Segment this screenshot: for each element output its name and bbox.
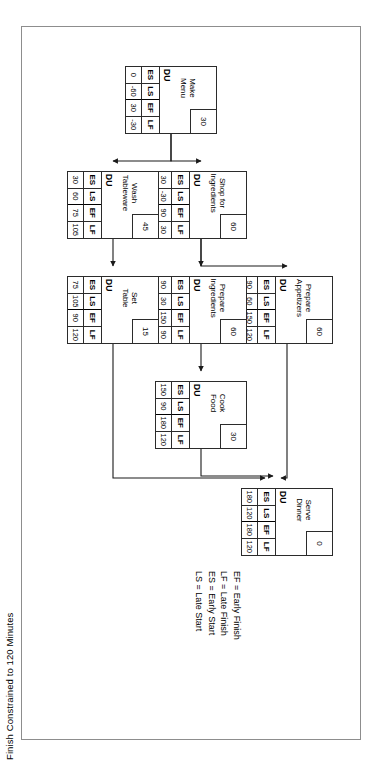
legend: EF = Early Finish LF = Late Finish ES = … <box>193 571 243 640</box>
es-value: 30 <box>68 172 85 189</box>
du-label: DU <box>192 174 202 186</box>
node-values-grid: ES LS EF LF 30 60 75 105 <box>68 172 102 238</box>
legend-item-lf: LF = Late Finish <box>218 571 231 640</box>
du-value: 15 <box>132 319 158 343</box>
node-make-menu[interactable]: Make Menu DU 30 ES LS EF LF 0 -60 30 -30 <box>125 66 217 134</box>
link-appetizers-to-serve <box>281 344 287 478</box>
ls-header: LS <box>143 84 160 101</box>
du-value: 60 <box>220 214 246 238</box>
ls-value: 105 <box>68 294 85 311</box>
lf-header: LF <box>85 327 102 344</box>
du-value: 30 <box>190 109 216 133</box>
ls-value: 90 <box>156 399 173 416</box>
link-shop-to-appetizers <box>201 239 287 266</box>
node-header: Prepare Ingredients DU 60 <box>190 277 246 343</box>
ls-header: LS <box>85 189 102 206</box>
ls-value: 120 <box>242 506 259 523</box>
ef-header: EF <box>259 310 276 327</box>
node-values-grid: ES LS EF LF 90 30 150 90 <box>156 277 190 343</box>
ef-value: 30 <box>126 100 143 117</box>
du-value: 60 <box>220 319 246 343</box>
ls-value: -60 <box>126 84 143 101</box>
node-values-grid: ES LS EF LF 75 105 90 120 <box>68 277 102 343</box>
es-header: ES <box>259 489 276 506</box>
lf-value: 120 <box>242 539 259 556</box>
ls-value: 60 <box>68 189 85 206</box>
legend-item-ls: LS = Late Start <box>193 571 206 640</box>
es-header: ES <box>85 277 102 294</box>
node-header: Wash Tableware DU 45 <box>102 172 158 238</box>
ls-header: LS <box>259 506 276 523</box>
du-label: DU <box>162 69 172 81</box>
lf-value: 120 <box>68 327 85 344</box>
ls-header: LS <box>173 294 190 311</box>
node-cook-food[interactable]: Cook Food DU 30 ES LS EF LF 150 90 180 1… <box>155 381 247 449</box>
page-title: Finish Constrained to 120 Minutes <box>0 0 20 760</box>
es-header: ES <box>259 277 276 294</box>
du-value: 45 <box>132 214 158 238</box>
lf-header: LF <box>143 117 160 134</box>
ef-value: 180 <box>156 415 173 432</box>
ef-value: 180 <box>242 522 259 539</box>
node-values-grid: ES LS EF LF 180 120 180 120 <box>242 489 276 555</box>
du-label: DU <box>278 491 288 503</box>
lf-header: LF <box>173 327 190 344</box>
es-header: ES <box>173 172 190 189</box>
link-make-menu-to-shop <box>171 134 201 161</box>
node-values-grid: ES LS EF LF 30 -30 90 30 <box>156 172 190 238</box>
ls-header: LS <box>85 294 102 311</box>
node-wash-tableware[interactable]: Wash Tableware DU 45 ES LS EF LF 30 60 7… <box>67 171 159 239</box>
node-values-grid: ES LS EF LF 150 90 180 120 <box>156 382 190 448</box>
lf-header: LF <box>259 539 276 556</box>
es-header: ES <box>173 277 190 294</box>
ef-header: EF <box>85 310 102 327</box>
node-header: Serve Dinner DU 0 <box>276 489 332 555</box>
lf-header: LF <box>259 327 276 344</box>
es-value: 0 <box>126 67 143 84</box>
node-shop-for-ingredients[interactable]: Shop for Ingredients DU 60 ES LS EF LF 3… <box>155 171 247 239</box>
ls-header: LS <box>173 399 190 416</box>
node-prepare-ingredients[interactable]: Prepare Ingredients DU 60 ES LS EF LF 90… <box>155 276 247 344</box>
lf-header: LF <box>173 432 190 449</box>
lf-header: LF <box>85 222 102 239</box>
node-header: Set Table DU 15 <box>102 277 158 343</box>
ef-header: EF <box>173 310 190 327</box>
du-label: DU <box>192 279 202 291</box>
du-label: DU <box>104 174 114 186</box>
es-header: ES <box>173 382 190 399</box>
node-prepare-appetizers[interactable]: Prepare Appetizers DU 60 ES LS EF LF 90 … <box>241 276 333 344</box>
ef-value: 75 <box>68 205 85 222</box>
ls-header: LS <box>173 189 190 206</box>
ef-value: 90 <box>68 310 85 327</box>
du-value: 60 <box>306 319 332 343</box>
ef-header: EF <box>173 205 190 222</box>
lf-value: 105 <box>68 222 85 239</box>
du-value: 0 <box>306 531 332 555</box>
node-serve-dinner[interactable]: Serve Dinner DU 0 ES LS EF LF 180 120 18… <box>241 488 333 556</box>
du-label: DU <box>278 279 288 291</box>
du-label: DU <box>104 279 114 291</box>
du-value: 30 <box>220 424 246 448</box>
lf-value: -30 <box>126 117 143 134</box>
ef-header: EF <box>173 415 190 432</box>
node-values-grid: ES LS EF LF 0 -60 30 -30 <box>126 67 160 133</box>
legend-item-es: ES = Early Start <box>206 571 219 640</box>
legend-item-ef: EF = Early Finish <box>231 571 244 640</box>
node-header: Make Menu DU 30 <box>160 67 216 133</box>
lf-value: 120 <box>156 432 173 449</box>
es-value: 75 <box>68 277 85 294</box>
node-values-grid: ES LS EF LF 90 60 150 120 <box>242 277 276 343</box>
ls-header: LS <box>259 294 276 311</box>
es-value: 150 <box>156 382 173 399</box>
network-diagram: Make Menu DU 30 ES LS EF LF 0 -60 30 -30… <box>21 26 361 740</box>
ef-header: EF <box>85 205 102 222</box>
node-set-table[interactable]: Set Table DU 15 ES LS EF LF 75 105 90 12… <box>67 276 159 344</box>
link-cook-to-serve <box>201 449 273 476</box>
lf-header: LF <box>173 222 190 239</box>
node-header: Shop for Ingredients DU 60 <box>190 172 246 238</box>
du-label: DU <box>192 384 202 396</box>
node-header: Cook Food DU 30 <box>190 382 246 448</box>
ef-header: EF <box>143 100 160 117</box>
link-make-menu-to-wash <box>113 134 171 161</box>
ef-header: EF <box>259 522 276 539</box>
